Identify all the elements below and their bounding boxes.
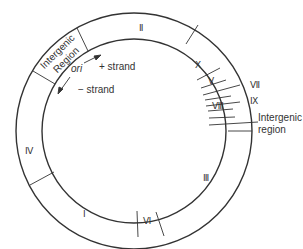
segment-label-iii: Ⅲ [203, 173, 209, 183]
segment-label-vi: Ⅵ [143, 216, 151, 226]
segment-label-ii: Ⅱ [139, 23, 143, 33]
genome-map: Ⅱ Ⅹ Ⅴ Ⅷ Ⅲ Ⅵ Ⅰ Ⅳ Ⅶ Ⅸ Intergenic region In… [0, 0, 303, 249]
segment-label-i: Ⅰ [83, 209, 86, 219]
callout-ix: Ⅸ [250, 96, 258, 106]
callout-intergenic-line2: region [258, 124, 286, 135]
segment-label-viii: Ⅷ [212, 101, 224, 111]
callout-intergenic-line1: Intergenic [258, 112, 302, 123]
segment-label-iv: Ⅳ [25, 146, 34, 156]
ori-label: ori [71, 63, 83, 74]
plus-arrowhead-icon [94, 55, 101, 60]
callout-vii: Ⅶ [250, 80, 260, 90]
segment-label-v: Ⅴ [208, 76, 215, 86]
minus-strand-label: − strand [78, 84, 114, 95]
plus-strand-label: + strand [99, 61, 135, 72]
segment-label-x: Ⅹ [195, 60, 201, 70]
